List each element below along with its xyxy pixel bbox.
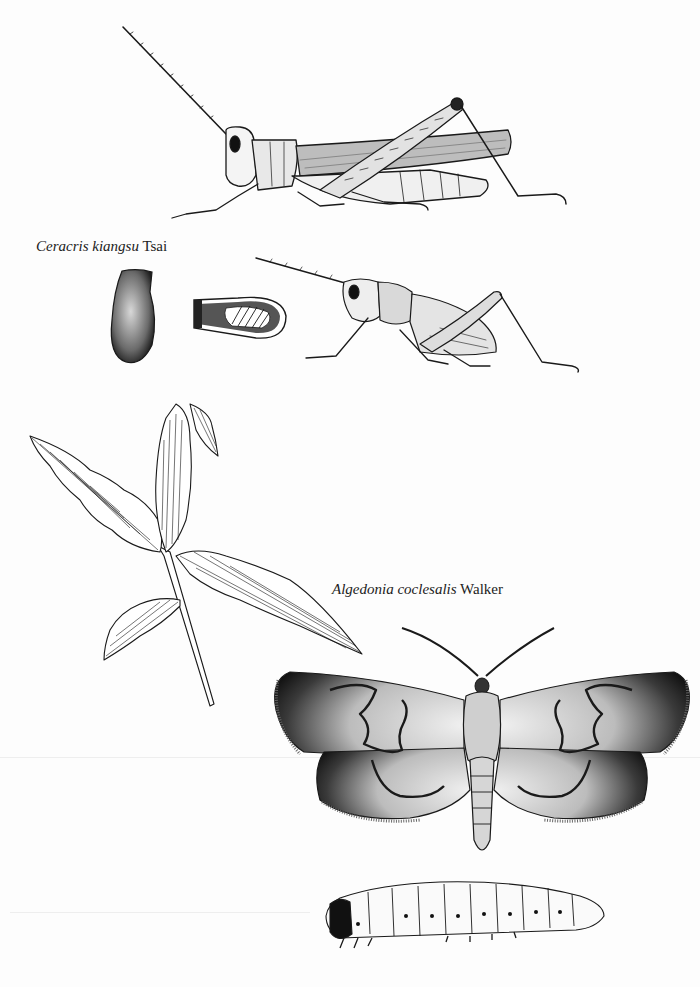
illustration-plate: Ceracris kiangsu Tsai bbox=[0, 0, 700, 987]
larva-figure bbox=[0, 0, 700, 987]
